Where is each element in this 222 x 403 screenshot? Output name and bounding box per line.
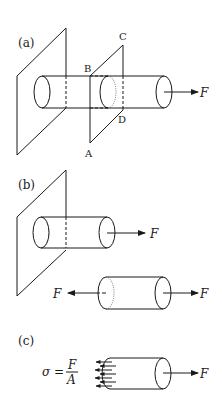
corner-label-a: A bbox=[84, 148, 93, 159]
corner-label-b: B bbox=[84, 63, 91, 74]
cutting-plane bbox=[90, 45, 123, 143]
force-label: F bbox=[149, 227, 159, 241]
panel-b: (b) F F F bbox=[17, 170, 209, 309]
panel-c: (c) σ = F A F bbox=[18, 334, 209, 389]
panel-a: (a) bbox=[17, 28, 209, 159]
panel-a-label: (a) bbox=[18, 36, 35, 50]
force-label-left: F bbox=[52, 287, 62, 301]
panel-b-label: (b) bbox=[18, 178, 35, 192]
stress-diagram: (a) bbox=[0, 0, 222, 403]
force-label: F bbox=[199, 86, 209, 100]
corner-label-c: C bbox=[119, 31, 127, 42]
bar-cylinder bbox=[34, 76, 172, 108]
attached-bar bbox=[33, 217, 115, 248]
force-label-right: F bbox=[199, 287, 209, 301]
formula-lhs: σ = bbox=[42, 365, 64, 379]
corner-label-d: D bbox=[118, 114, 126, 125]
force-label: F bbox=[199, 367, 209, 381]
free-body-bar bbox=[98, 277, 171, 309]
formula-numerator: F bbox=[67, 358, 77, 372]
stress-distribution-arrows bbox=[95, 362, 116, 386]
panel-c-label: (c) bbox=[18, 334, 34, 348]
formula-denominator: A bbox=[66, 373, 76, 387]
